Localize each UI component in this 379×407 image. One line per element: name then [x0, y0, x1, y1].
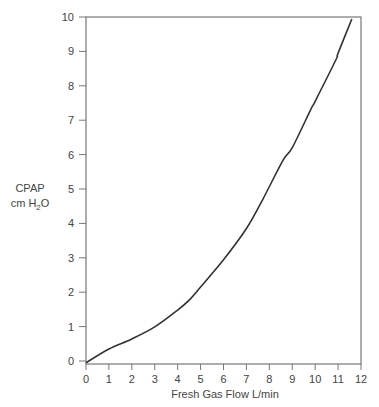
y-tick-label: 5 — [68, 183, 74, 195]
x-tick-label: 12 — [355, 373, 367, 385]
y-tick-label: 10 — [62, 11, 74, 23]
y-axis-ticks: 012345678910 — [62, 11, 86, 367]
y-tick-label: 4 — [68, 217, 74, 229]
y-tick-label: 0 — [68, 355, 74, 367]
x-tick-label: 2 — [129, 373, 135, 385]
x-tick-label: 5 — [198, 373, 204, 385]
x-axis-ticks: 0123456789101112 — [83, 364, 367, 385]
x-tick-label: 8 — [266, 373, 272, 385]
x-tick-label: 0 — [83, 373, 89, 385]
y-tick-label: 8 — [68, 80, 74, 92]
x-tick-label: 1 — [106, 373, 112, 385]
x-axis-title: Fresh Gas Flow L/min — [150, 387, 300, 402]
y-tick-label: 7 — [68, 114, 74, 126]
y-tick-label: 2 — [68, 286, 74, 298]
plot-frame — [86, 17, 361, 364]
y-tick-label: 9 — [68, 45, 74, 57]
y-axis-title-line1: CPAP — [10, 181, 50, 196]
x-tick-label: 7 — [243, 373, 249, 385]
y-axis-title-line2: cm H2O — [10, 196, 50, 215]
y-tick-label: 6 — [68, 149, 74, 161]
x-tick-label: 10 — [309, 373, 321, 385]
y-tick-label: 1 — [68, 321, 74, 333]
x-tick-label: 6 — [220, 373, 226, 385]
y-axis-title: CPAP cm H2O — [10, 181, 50, 215]
x-tick-label: 3 — [152, 373, 158, 385]
x-tick-label: 11 — [332, 373, 343, 385]
y-tick-label: 3 — [68, 252, 74, 264]
x-tick-label: 4 — [175, 373, 181, 385]
x-tick-label: 9 — [289, 373, 295, 385]
chart: 012345678910 0123456789101112 — [0, 0, 379, 407]
data-line — [86, 19, 352, 363]
